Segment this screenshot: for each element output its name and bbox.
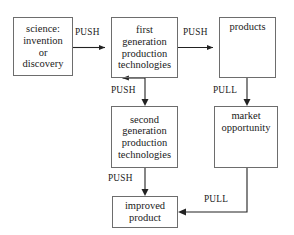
- node-second-generation-line-4: technologies: [118, 149, 171, 161]
- connector-second-generation-to-improved-product: [142, 168, 149, 196]
- connector-market-opportunity-to-improved-product: [178, 168, 247, 216]
- node-science-line-3: or: [39, 47, 48, 59]
- node-first-generation-line-3: production: [122, 48, 168, 60]
- node-science-line-2: invention: [23, 35, 63, 47]
- push-pull-innovation-diagram: science: invention or discovery first ge…: [0, 0, 294, 235]
- node-improved-product[interactable]: improved product: [112, 196, 178, 228]
- node-science[interactable]: science: invention or discovery: [13, 17, 73, 76]
- edge-label-first-generation-to-products: PUSH: [183, 27, 208, 37]
- node-market-opportunity-line-1: market: [231, 110, 260, 122]
- node-improved-product-line-1: improved: [125, 200, 165, 212]
- node-market-opportunity[interactable]: market opportunity: [214, 106, 278, 168]
- node-products[interactable]: products: [219, 17, 276, 78]
- node-market-opportunity-line-2: opportunity: [222, 122, 271, 134]
- edge-label-science-to-first-generation: PUSH: [75, 27, 100, 37]
- edge-label-market-opportunity-to-improved-product: PULL: [204, 194, 228, 204]
- node-second-generation-line-1: second: [130, 114, 159, 126]
- node-first-generation-line-1: first: [136, 24, 153, 36]
- node-first-generation-line-4: technologies: [118, 59, 171, 71]
- node-first-generation[interactable]: first generation production technologies: [111, 17, 178, 78]
- node-science-line-1: science:: [26, 23, 60, 35]
- edge-label-products-to-market-opportunity: PULL: [213, 85, 237, 95]
- node-improved-product-line-2: product: [129, 212, 161, 224]
- node-science-line-4: discovery: [23, 58, 64, 70]
- node-products-label: products: [229, 21, 265, 33]
- node-second-generation-line-3: production: [122, 137, 168, 149]
- edge-label-second-generation-to-improved-product: PUSH: [108, 173, 133, 183]
- node-first-generation-line-2: generation: [122, 36, 166, 48]
- connector-products-to-market-opportunity: [244, 78, 251, 106]
- node-second-generation-line-2: generation: [122, 125, 166, 137]
- node-second-generation[interactable]: second generation production technologie…: [111, 106, 178, 168]
- edge-label-first-generation-to-second-generation: PUSH: [111, 85, 136, 95]
